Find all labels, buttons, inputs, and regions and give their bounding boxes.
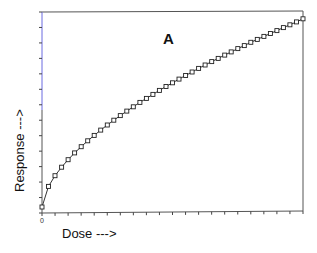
data-point-marker <box>190 70 194 74</box>
data-point-marker <box>223 53 227 57</box>
y-axis-label: Response ---> <box>12 109 27 192</box>
data-point-marker <box>184 74 188 78</box>
data-point-marker <box>157 88 161 92</box>
data-point-marker <box>216 56 220 60</box>
data-point-marker <box>295 20 299 24</box>
data-point-marker <box>60 165 64 169</box>
data-point-marker <box>301 17 305 21</box>
data-point-marker <box>112 118 116 122</box>
data-point-marker <box>40 205 44 209</box>
data-point-marker <box>249 40 253 44</box>
data-point-marker <box>210 60 214 64</box>
data-point-marker <box>47 184 51 188</box>
data-point-marker <box>105 123 109 127</box>
data-point-marker <box>262 34 266 38</box>
data-point-marker <box>99 128 103 132</box>
data-point-marker <box>197 66 201 70</box>
data-point-marker <box>288 23 292 27</box>
data-point-marker <box>138 100 142 104</box>
data-point-marker <box>236 47 240 51</box>
data-point-marker <box>92 133 96 137</box>
data-point-marker <box>151 92 155 96</box>
data-point-marker <box>177 77 181 81</box>
data-point-marker <box>73 151 77 155</box>
data-point-marker <box>144 96 148 100</box>
panel-label: A <box>163 30 174 47</box>
data-point-marker <box>229 50 233 54</box>
data-point-marker <box>275 29 279 33</box>
data-point-marker <box>86 139 90 143</box>
data-point-marker <box>171 81 175 85</box>
data-point-marker <box>281 26 285 30</box>
data-point-marker <box>131 105 135 109</box>
data-point-marker <box>203 63 207 67</box>
data-point-marker <box>255 37 259 41</box>
x-axis-label: Dose ---> <box>62 226 117 241</box>
data-point-marker <box>164 85 168 89</box>
data-point-marker <box>118 114 122 118</box>
dose-response-chart <box>0 0 317 253</box>
data-point-marker <box>268 32 272 36</box>
data-point-marker <box>125 109 129 113</box>
data-point-marker <box>242 44 246 48</box>
data-point-marker <box>66 158 70 162</box>
data-point-marker <box>53 174 57 178</box>
x-tick-label-zero: 0 <box>40 217 44 224</box>
data-point-marker <box>79 145 83 149</box>
